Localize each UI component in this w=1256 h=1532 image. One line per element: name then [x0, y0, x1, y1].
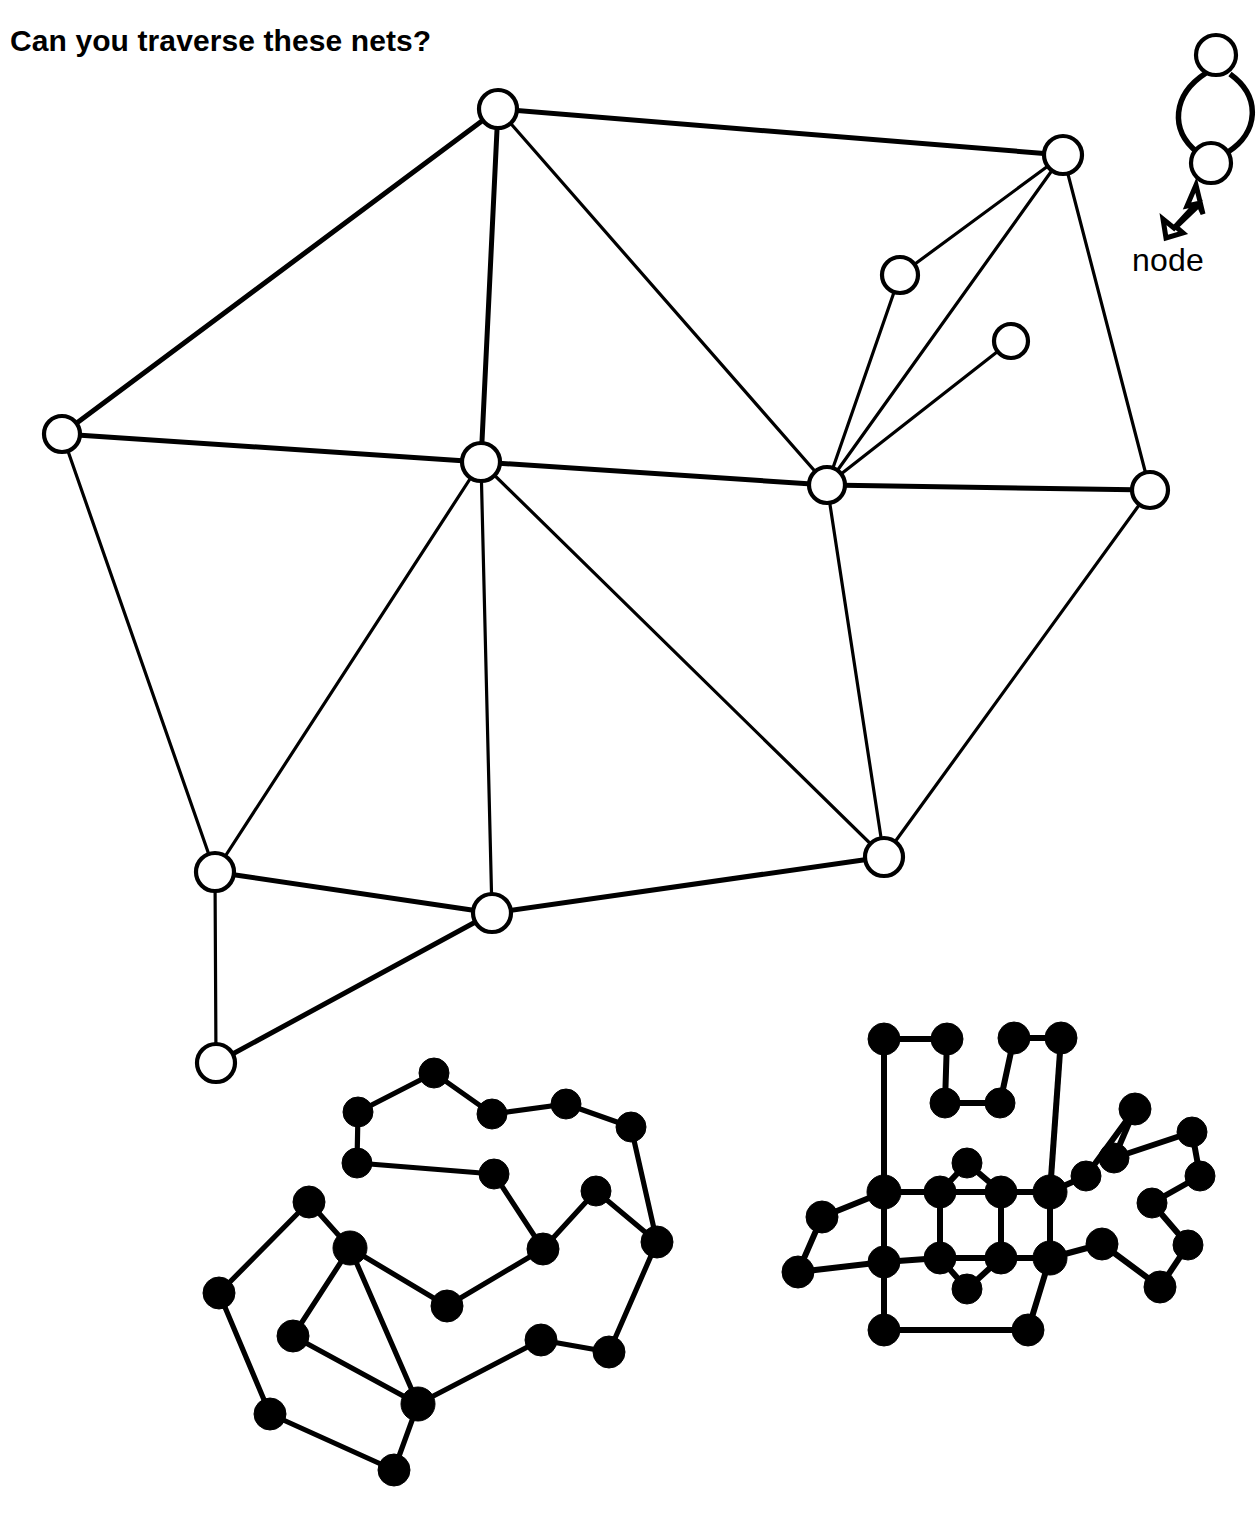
- br-node-22: [985, 1242, 1017, 1274]
- edge-F-J: [481, 462, 884, 857]
- br-node-24: [868, 1246, 900, 1278]
- bl-edge-11: [447, 1249, 543, 1306]
- bl-node-16: [525, 1324, 557, 1356]
- bl-node-9: [293, 1186, 325, 1218]
- edge-G-H: [827, 485, 1150, 490]
- bl-edge-23: [609, 1242, 657, 1352]
- edge-J-K: [492, 857, 884, 913]
- main-net: [44, 90, 1168, 1082]
- bl-edge-21: [418, 1340, 541, 1404]
- lens-left-arc: [1178, 73, 1206, 152]
- br-edge-7: [1050, 1038, 1061, 1192]
- br-node-21: [924, 1242, 956, 1274]
- br-node-29: [1012, 1314, 1044, 1346]
- br-node-3: [998, 1022, 1030, 1054]
- edge-C-G: [827, 275, 900, 485]
- lens-right-arc: [1228, 74, 1252, 152]
- edge-B-G: [827, 155, 1063, 485]
- edge-A-E: [62, 109, 498, 434]
- bl-node-6: [342, 1148, 372, 1178]
- br-node-16: [1033, 1175, 1067, 1209]
- bl-node-2: [343, 1097, 373, 1127]
- bl-node-15: [277, 1320, 309, 1352]
- br-node-11: [952, 1148, 982, 1178]
- edge-H-J: [884, 490, 1150, 857]
- nets-illustration: [0, 0, 1256, 1532]
- lens-node-bottom: [1191, 143, 1231, 183]
- main-node-C: [882, 257, 918, 293]
- br-node-9: [1099, 1143, 1129, 1173]
- node-pointer-arrow-icon: [1163, 185, 1203, 238]
- main-node-D: [994, 324, 1028, 358]
- bl-node-20: [378, 1454, 410, 1486]
- edge-D-G: [827, 341, 1011, 485]
- bl-node-17: [593, 1336, 625, 1368]
- bl-edge-15: [219, 1293, 270, 1414]
- bl-node-13: [203, 1277, 235, 1309]
- bl-node-4: [551, 1089, 581, 1119]
- br-node-6: [985, 1088, 1015, 1118]
- edge-B-C: [900, 155, 1063, 275]
- bottom-left-net: [203, 1058, 673, 1486]
- edge-K-L: [216, 913, 492, 1063]
- main-node-K: [473, 894, 511, 932]
- br-node-28: [868, 1314, 900, 1346]
- edge-A-F: [481, 109, 498, 462]
- edge-G-J: [827, 485, 884, 857]
- br-node-10: [1185, 1161, 1215, 1191]
- bl-node-5: [616, 1112, 646, 1142]
- br-node-17: [1137, 1188, 1167, 1218]
- bl-edge-19: [293, 1336, 418, 1404]
- bl-edge-16: [270, 1414, 394, 1470]
- main-node-I: [196, 853, 234, 891]
- bl-node-12: [333, 1231, 367, 1265]
- bl-node-7: [479, 1159, 509, 1189]
- main-node-F: [462, 443, 500, 481]
- br-node-4: [1045, 1022, 1077, 1054]
- main-node-A: [479, 90, 517, 128]
- br-node-25: [1144, 1271, 1176, 1303]
- edge-I-L: [215, 872, 216, 1063]
- edge-B-H: [1063, 155, 1150, 490]
- br-node-13: [867, 1175, 901, 1209]
- br-node-2: [931, 1023, 963, 1055]
- br-node-12: [1071, 1161, 1101, 1191]
- main-node-L: [197, 1044, 235, 1082]
- edge-F-K: [481, 462, 492, 913]
- main-node-J: [865, 838, 903, 876]
- edge-E-I: [62, 434, 215, 872]
- bl-node-14: [431, 1290, 463, 1322]
- bl-node-8: [581, 1176, 611, 1206]
- edge-A-G: [498, 109, 827, 485]
- br-node-20: [1086, 1228, 1118, 1260]
- bl-node-10: [527, 1233, 559, 1265]
- bl-node-3: [477, 1099, 507, 1129]
- edge-E-F: [62, 434, 481, 462]
- br-node-27: [782, 1256, 814, 1288]
- main-net-edges: [62, 109, 1150, 1063]
- br-node-19: [1173, 1230, 1203, 1260]
- br-node-26: [952, 1274, 982, 1304]
- edge-A-B: [498, 109, 1063, 155]
- br-node-7: [1119, 1093, 1151, 1125]
- br-node-15: [985, 1176, 1017, 1208]
- bl-node-11: [641, 1226, 673, 1258]
- br-node-23: [1033, 1241, 1067, 1275]
- br-node-1: [868, 1023, 900, 1055]
- bottom-right-net: [782, 1022, 1215, 1346]
- br-node-5: [930, 1088, 960, 1118]
- bl-edge-18: [350, 1248, 418, 1404]
- edge-F-I: [215, 462, 481, 872]
- edge-F-G: [481, 462, 827, 485]
- br-node-14: [924, 1176, 956, 1208]
- bl-edge-6: [357, 1163, 494, 1174]
- worksheet-page: Can you traverse these nets? node: [0, 0, 1256, 1532]
- main-node-G: [809, 467, 845, 503]
- bl-node-1: [419, 1058, 449, 1088]
- bl-node-19: [401, 1387, 435, 1421]
- main-node-B: [1044, 136, 1082, 174]
- bl-edge-14: [219, 1202, 309, 1293]
- bottom-left-net-nodes: [203, 1058, 673, 1486]
- edge-I-K: [215, 872, 492, 913]
- bottom-right-net-nodes: [782, 1022, 1215, 1346]
